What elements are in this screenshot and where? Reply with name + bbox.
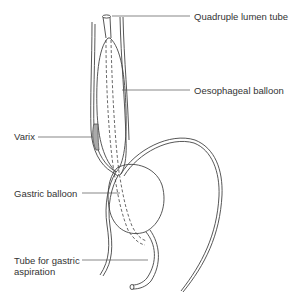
internal-tube-right bbox=[111, 40, 147, 241]
aspiration-tube bbox=[133, 230, 158, 289]
label-aspiration-line1: Tube for gastric bbox=[14, 255, 80, 266]
label-quadruple-lumen-tube: Quadruple lumen tube bbox=[194, 11, 288, 22]
balloon-tamponade-diagram: Quadruple lumen tube Oesophageal balloon… bbox=[0, 0, 300, 305]
tube-top bbox=[103, 17, 111, 38]
label-gastric-balloon: Gastric balloon bbox=[14, 188, 77, 199]
label-varix: Varix bbox=[14, 131, 35, 142]
aspiration-tube-tip bbox=[130, 285, 134, 290]
label-oesophageal-balloon: Oesophageal balloon bbox=[194, 85, 284, 96]
stomach-left-wall bbox=[100, 172, 116, 275]
stomach-curve-inner bbox=[124, 141, 219, 291]
tube-opening bbox=[103, 15, 111, 18]
label-aspiration-line2: aspiration bbox=[14, 266, 55, 277]
